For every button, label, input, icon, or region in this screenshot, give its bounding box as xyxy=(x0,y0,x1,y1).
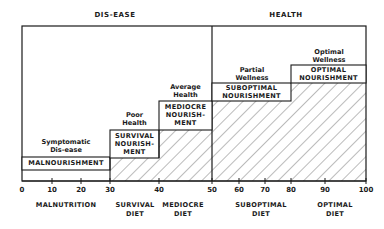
header-health: HEALTH xyxy=(256,11,316,19)
text-malnourishment: MALNOURISHMENT xyxy=(22,159,110,167)
tick-60: 60 xyxy=(229,186,249,194)
text-suboptimal-nourishment: SUBOPTIMAL NOURISHMENT xyxy=(212,84,291,100)
label-partial-wellness: Partial Wellness xyxy=(222,66,282,82)
header-dis-ease: DIS-EASE xyxy=(90,11,140,19)
tick-70: 70 xyxy=(255,186,275,194)
diet-suboptimal: SUBOPTIMAL DIET xyxy=(226,201,296,219)
label-optimal-wellness: Optimal Wellness xyxy=(300,48,358,64)
label-poor-health: Poor Health xyxy=(110,111,159,127)
tick-30: 30 xyxy=(100,186,120,194)
diet-survival: SURVIVAL DIET xyxy=(110,201,160,219)
diet-malnutrition: MALNUTRITION xyxy=(26,201,106,210)
tick-10: 10 xyxy=(42,186,62,194)
text-mediocre-nourishment: MEDIOCRE NOURISH- MENT xyxy=(159,103,212,127)
tick-20: 20 xyxy=(71,186,91,194)
tick-100: 100 xyxy=(356,186,376,194)
label-average-health: Average Health xyxy=(159,83,212,99)
diet-optimal: OPTIMAL DIET xyxy=(310,201,360,219)
label-symptomatic-disease: Symptomatic Dis-ease xyxy=(30,138,102,154)
tick-0: 0 xyxy=(12,186,32,194)
tick-40: 40 xyxy=(149,186,169,194)
tick-50: 50 xyxy=(202,186,222,194)
diet-mediocre: MEDIOCRE DIET xyxy=(158,201,208,219)
tick-90: 90 xyxy=(315,186,335,194)
tick-80: 80 xyxy=(281,186,301,194)
text-survival-nourishment: SURVIVAL NOURISH- MENT xyxy=(110,132,159,156)
text-optimal-nourishment: OPTIMAL NOURISHMENT xyxy=(291,66,366,82)
